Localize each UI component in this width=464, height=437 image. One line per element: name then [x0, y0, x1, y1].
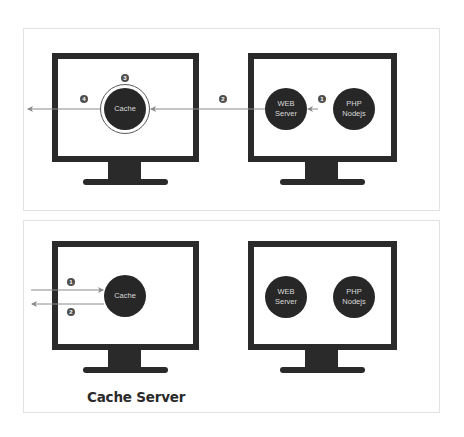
cache-server-node: Cache [104, 275, 146, 317]
bottom-arrows [0, 0, 464, 437]
bottom-web-server-node: WEB Server [265, 276, 307, 318]
bottom-web-server-node-label: WEB Server [275, 287, 297, 307]
bottom-php-nodejs-node: PHP Nodejs [333, 276, 375, 318]
bottom-step-marker-2: 2 [67, 308, 75, 316]
cache-server-node-label: Cache [114, 291, 136, 301]
bottom-step-marker-1: 1 [67, 278, 75, 286]
cache-server-caption: Cache Server [87, 389, 185, 405]
bottom-php-nodejs-node-label: PHP Nodejs [342, 287, 365, 307]
